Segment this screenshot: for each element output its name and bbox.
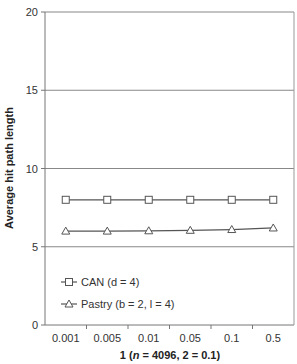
legend-item: CAN (d = 4) (61, 276, 139, 288)
data-point (104, 196, 111, 203)
series-0 (62, 196, 277, 203)
y-tick-label: 20 (26, 6, 38, 18)
x-tick-label: 0.01 (138, 332, 159, 344)
series-1 (62, 224, 278, 234)
series-line (66, 228, 274, 231)
y-axis-ticks: 05101520 (26, 6, 45, 331)
y-tick-label: 0 (32, 319, 38, 331)
grid-lines (45, 12, 294, 247)
data-point (145, 196, 152, 203)
y-tick-label: 10 (26, 163, 38, 175)
x-tick-label: 0.001 (52, 332, 80, 344)
x-tick-label: 0.05 (180, 332, 201, 344)
legend-label: Pastry (b = 2, l = 4) (81, 298, 175, 310)
x-tick-label: 0.1 (224, 332, 239, 344)
x-tick-label: 0.005 (93, 332, 121, 344)
line-chart: 05101520 0.0010.0050.010.050.10.5 Averag… (0, 0, 297, 364)
legend: CAN (d = 4)Pastry (b = 2, l = 4) (61, 276, 175, 310)
y-axis-title: Average hit path length (3, 107, 15, 229)
x-axis-title: 1 (n = 4096, 2 = 0.1) (120, 349, 221, 361)
legend-item: Pastry (b = 2, l = 4) (61, 298, 175, 310)
legend-label: CAN (d = 4) (81, 276, 139, 288)
data-point (270, 196, 277, 203)
data-point (187, 196, 194, 203)
data-point (228, 196, 235, 203)
series-group (62, 196, 278, 234)
y-tick-label: 15 (26, 84, 38, 96)
x-axis-ticks: 0.0010.0050.010.050.10.5 (52, 325, 281, 344)
data-point (269, 224, 277, 231)
y-tick-label: 5 (32, 241, 38, 253)
x-tick-label: 0.5 (266, 332, 281, 344)
legend-marker (66, 279, 73, 286)
data-point (62, 196, 69, 203)
